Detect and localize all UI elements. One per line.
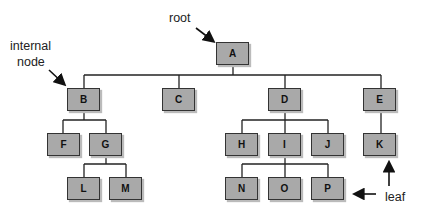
node-J: J bbox=[311, 133, 344, 156]
internal-node-label-line1: internal bbox=[10, 39, 51, 54]
node-C: C bbox=[162, 88, 195, 111]
node-I: I bbox=[268, 133, 301, 156]
node-E: E bbox=[363, 88, 396, 111]
internal-node-arrow bbox=[49, 70, 64, 84]
node-K: K bbox=[363, 133, 396, 156]
node-H: H bbox=[225, 133, 258, 156]
tree-connectors bbox=[0, 0, 421, 216]
node-L: L bbox=[67, 177, 100, 200]
node-N: N bbox=[225, 177, 258, 200]
node-P: P bbox=[311, 177, 344, 200]
internal-node-label-line2: node bbox=[17, 55, 45, 70]
node-M: M bbox=[109, 177, 142, 200]
node-G: G bbox=[89, 133, 122, 156]
root-arrow bbox=[196, 28, 213, 41]
root-label: root bbox=[169, 11, 191, 26]
node-B: B bbox=[67, 88, 100, 111]
node-F: F bbox=[47, 133, 80, 156]
node-D: D bbox=[268, 88, 301, 111]
node-A: A bbox=[216, 42, 249, 65]
leaf-label: leaf bbox=[385, 190, 405, 205]
node-O: O bbox=[268, 177, 301, 200]
